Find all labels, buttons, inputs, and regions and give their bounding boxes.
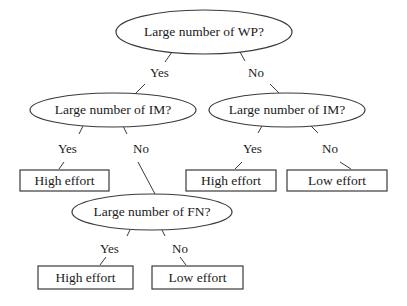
- leaf-right-high: High effort: [186, 170, 276, 191]
- edge-label-root-yes: Yes: [150, 65, 169, 80]
- node-im-left: Large number of IM?: [30, 93, 196, 127]
- edge-root-no-upper: [240, 52, 245, 61]
- leaf-right-low: Low effort: [287, 170, 387, 191]
- leaf-label-fn-low: Low effort: [169, 270, 227, 285]
- edge-fn-no-upper: [162, 230, 165, 236]
- edge-im-right-yes-lower: [235, 162, 242, 169]
- leaf-label-fn-high: High effort: [55, 270, 115, 285]
- edge-label-im-right-yes: Yes: [243, 141, 262, 156]
- edge-label-fn-yes: Yes: [100, 241, 119, 256]
- leaf-fn-low: Low effort: [152, 266, 243, 289]
- edge-label-root-no: No: [248, 65, 264, 80]
- node-label-im-right: Large number of IM?: [229, 102, 345, 117]
- edge-fn-yes-lower: [100, 257, 106, 265]
- leaf-label-left-high: High effort: [34, 173, 94, 188]
- edge-label-im-left-yes: Yes: [58, 141, 77, 156]
- leaf-left-high: High effort: [20, 170, 109, 191]
- edge-im-left-yes-lower: [59, 162, 64, 169]
- node-im-right: Large number of IM?: [209, 93, 365, 127]
- edge-im-right-yes-upper: [258, 126, 262, 133]
- node-label-root: Large number of WP?: [144, 24, 264, 39]
- node-label-fn: Large number of FN?: [93, 204, 210, 219]
- leaf-label-right-low: Low effort: [308, 173, 366, 188]
- edge-label-im-right-no: No: [322, 141, 338, 156]
- decision-tree-diagram: Yes No Yes No Yes No Yes No Large number…: [0, 0, 407, 306]
- edge-label-fn-no: No: [172, 241, 188, 256]
- leaf-fn-high: High effort: [38, 266, 133, 289]
- edge-root-no-lower: [270, 84, 279, 93]
- edge-im-left-no-lower: [138, 162, 155, 194]
- edge-im-right-no-lower: [340, 162, 351, 169]
- edge-fn-yes-upper: [127, 230, 130, 236]
- edge-im-left-yes-upper: [79, 126, 83, 134]
- node-root: Large number of WP?: [116, 10, 292, 54]
- edge-root-yes-upper: [165, 52, 172, 62]
- leaf-label-right-high: High effort: [201, 173, 261, 188]
- edge-im-right-no-upper: [311, 126, 318, 133]
- node-fn: Large number of FN?: [72, 194, 232, 230]
- edge-label-im-left-no: No: [133, 141, 149, 156]
- node-label-im-left: Large number of IM?: [55, 102, 171, 117]
- edge-fn-no-lower: [180, 257, 186, 265]
- edge-root-yes-lower: [135, 84, 145, 94]
